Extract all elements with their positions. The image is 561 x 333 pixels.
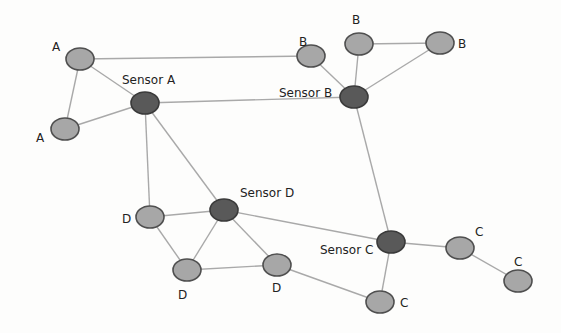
sensor-node-sc [377, 231, 405, 253]
node-label-sa: Sensor A [122, 73, 176, 87]
edge-sb-sc [354, 97, 391, 242]
node-d3 [263, 254, 291, 276]
node-d2 [173, 259, 201, 281]
sensor-network-diagram: AASensor ABBBSensor BSensor DDDDSensor C… [0, 0, 561, 333]
node-label-d3: D [272, 281, 281, 295]
node-label-sd: Sensor D [240, 186, 294, 200]
node-a2 [51, 118, 79, 140]
node-label-c3: C [400, 296, 408, 310]
edge-sa-sd [145, 103, 224, 210]
node-d1 [136, 206, 164, 228]
node-label-c2: C [514, 255, 522, 269]
node-label-b2: B [352, 13, 360, 27]
node-label-b3: B [458, 37, 466, 51]
network-canvas: AASensor ABBBSensor BSensor DDDDSensor C… [0, 0, 561, 333]
edge-sa-d1 [145, 103, 150, 217]
node-label-sc: Sensor C [320, 243, 373, 257]
sensor-node-sb [340, 86, 368, 108]
node-b3 [426, 32, 454, 54]
node-b2 [345, 33, 373, 55]
edge-sd-sc [224, 210, 391, 242]
sensor-node-sa [131, 92, 159, 114]
node-c3 [366, 291, 394, 313]
edge-a1-b1 [80, 56, 311, 59]
node-c1 [446, 237, 474, 259]
node-c2 [504, 270, 532, 292]
sensor-node-sd [210, 199, 238, 221]
node-label-d1: D [122, 212, 131, 226]
node-label-d2: D [178, 288, 187, 302]
node-label-c1: C [475, 225, 483, 239]
edge-d3-c3 [277, 265, 380, 302]
node-a1 [66, 48, 94, 70]
node-label-sb: Sensor B [279, 86, 332, 100]
node-label-b1: B [299, 35, 307, 49]
node-label-a1: A [52, 40, 61, 54]
node-label-a2: A [36, 131, 45, 145]
